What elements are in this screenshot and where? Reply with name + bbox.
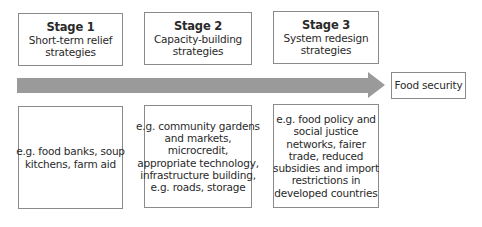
stage-2-box: Stage 2 Capacity-building strategies [144, 12, 252, 65]
stage-1-subtitle-line: strategies [45, 46, 95, 58]
stage-1-title: Stage 1 [46, 21, 94, 34]
example-line: e.g. roads, storage [151, 181, 246, 193]
example-line: networks, fairer [286, 138, 366, 150]
stage-1-box: Stage 1 Short-term relief strategies [18, 13, 123, 66]
example-line: and markets, [165, 132, 232, 144]
stage-3-box: Stage 3 System redesign strategies [273, 11, 379, 64]
food-security-box: Food security [391, 72, 466, 99]
right-arrow-icon [17, 72, 387, 98]
example-line: kitchens, farm aid [25, 158, 116, 170]
stage-3-subtitle-line: strategies [301, 44, 351, 56]
food-security-label: Food security [395, 79, 463, 91]
stage-2-subtitle-line: Capacity-building [154, 33, 242, 45]
stage-3-examples-box: e.g. food policy and social justice netw… [273, 104, 379, 208]
example-line: e.g. community gardens [136, 120, 260, 132]
example-line: social justice [294, 125, 359, 137]
example-line: restrictions in [292, 174, 361, 186]
example-line: developed countries [274, 187, 377, 199]
example-line: infrastructure building, [140, 169, 256, 181]
stage-2-title: Stage 2 [174, 20, 222, 33]
example-line: microcredit, [168, 144, 228, 156]
example-line: trade, reduced [289, 150, 364, 162]
stage-1-subtitle-line: Short-term relief [29, 34, 112, 46]
example-line: e.g. food banks, soup [16, 145, 125, 157]
example-line: e.g. food policy and [276, 113, 376, 125]
example-line: appropriate technology, [137, 157, 259, 169]
example-line: subsidies and import [273, 162, 379, 174]
stage-2-examples-box: e.g. community gardens and markets, micr… [144, 105, 252, 208]
stage-3-subtitle-line: System redesign [284, 32, 369, 44]
stage-2-subtitle-line: strategies [173, 45, 223, 57]
stage-1-examples-box: e.g. food banks, soup kitchens, farm aid [18, 106, 123, 209]
stage-3-title: Stage 3 [302, 19, 350, 32]
